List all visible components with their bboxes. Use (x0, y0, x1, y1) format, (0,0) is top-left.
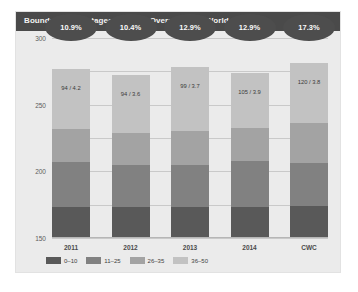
gridline: 0 (52, 238, 328, 239)
bar-segment[interactable] (171, 131, 209, 164)
percentage-badge: 10.4% (105, 14, 157, 41)
legend-label: 26–35 (148, 258, 165, 264)
x-axis-tick-label: CWC (301, 244, 317, 251)
percentage-badge: 12.9% (224, 14, 276, 41)
y-axis-tick-label: 250 (35, 101, 46, 108)
legend-item[interactable]: 11–25 (86, 257, 120, 264)
stacked-bar[interactable]: 105 / 3.92014 (231, 38, 269, 238)
percentage-badge: 12.9% (164, 14, 216, 41)
bar-value-label: 94 / 3.6 (121, 91, 140, 97)
bar-value-label: 99 / 3.7 (180, 83, 199, 89)
bar-segment[interactable] (231, 161, 269, 206)
percentage-badge: 17.3% (283, 14, 335, 41)
legend-swatch (130, 257, 145, 264)
bar-segment[interactable] (231, 128, 269, 161)
y-axis-tick-label: 200 (35, 168, 46, 175)
percentage-badge-label: 10.9% (60, 23, 81, 32)
bar-segment[interactable] (171, 207, 209, 238)
x-axis-tick-label: 2012 (123, 244, 137, 251)
legend-item[interactable]: 0–10 (46, 257, 77, 264)
chart-screenshot: Boundary percentages in Death Overs at e… (0, 0, 358, 292)
stacked-bar[interactable]: 94 / 4.22011 (52, 38, 90, 238)
bar-segment[interactable] (290, 163, 328, 206)
stacked-bar[interactable]: 120 / 3.8CWC (290, 38, 328, 238)
bar-segment[interactable] (112, 133, 150, 165)
bar-segment[interactable] (290, 206, 328, 238)
bar-value-label: 94 / 4.2 (61, 85, 80, 91)
x-axis-tick-label: 2014 (242, 244, 256, 251)
percentage-badge-label: 12.9% (179, 23, 200, 32)
legend-label: 36–50 (191, 258, 208, 264)
percentage-badge-label: 12.9% (239, 23, 260, 32)
y-axis-tick-label: 300 (35, 35, 46, 42)
legend-swatch (173, 257, 188, 264)
bar-value-label: 105 / 3.9 (238, 89, 261, 95)
legend-item[interactable]: 36–50 (173, 257, 208, 264)
legend-swatch (86, 257, 101, 264)
bar-segment[interactable] (52, 162, 90, 207)
bar-segment[interactable]: 94 / 4.2 (52, 69, 90, 128)
bar-segment[interactable] (52, 207, 90, 238)
plot-area: 30025020015010050094 / 4.2201194 / 3.620… (52, 38, 328, 238)
bar-group: 94 / 4.2201194 / 3.6201299 / 3.72013105 … (52, 38, 328, 238)
bar-segment[interactable] (171, 165, 209, 208)
bar-segment[interactable]: 99 / 3.7 (171, 67, 209, 132)
x-axis-tick-label: 2011 (64, 244, 78, 251)
bar-segment[interactable] (112, 207, 150, 238)
percentage-badge-label: 10.4% (120, 23, 141, 32)
bar-segment[interactable] (112, 165, 150, 207)
bar-segment[interactable] (290, 123, 328, 162)
x-axis-line (52, 237, 328, 238)
legend-item[interactable]: 26–35 (130, 257, 165, 264)
bar-segment[interactable] (231, 207, 269, 238)
bar-segment[interactable]: 94 / 3.6 (112, 75, 150, 133)
bar-segment[interactable]: 120 / 3.8 (290, 63, 328, 123)
stacked-bar[interactable]: 94 / 3.62012 (112, 38, 150, 238)
bar-value-label: 120 / 3.8 (298, 79, 321, 85)
bar-segment[interactable] (52, 129, 90, 162)
legend-label: 11–25 (104, 258, 120, 264)
percentage-badge: 10.9% (45, 14, 97, 41)
percentage-badge-label: 17.3% (298, 23, 319, 32)
legend-label: 0–10 (64, 258, 77, 264)
chart-card: Boundary percentages in Death Overs at e… (16, 12, 340, 272)
chart-legend: 0–1011–2526–3536–50 (46, 257, 208, 264)
x-axis-tick-label: 2013 (183, 244, 197, 251)
bar-segment[interactable]: 105 / 3.9 (231, 73, 269, 128)
legend-swatch (46, 257, 61, 264)
stacked-bar[interactable]: 99 / 3.72013 (171, 38, 209, 238)
y-axis-tick-label: 150 (35, 235, 46, 242)
